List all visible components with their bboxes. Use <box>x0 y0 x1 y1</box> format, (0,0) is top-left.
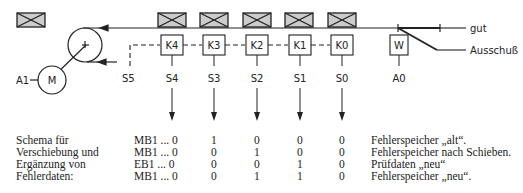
caption-line: Fehlerdaten: <box>16 170 73 183</box>
fault-data-table: Schema für Verschiebung und Ergänzung vo… <box>0 0 523 193</box>
bit-cell: 1 <box>297 170 303 183</box>
bit-cell: 0 <box>339 170 345 183</box>
bit-cell: 1 <box>254 170 260 183</box>
bit-cell: 0 <box>211 170 217 183</box>
row-note: Fehlerspeicher „neu“. <box>371 170 471 183</box>
row-ref: MB1 ... 0 <box>134 170 178 183</box>
